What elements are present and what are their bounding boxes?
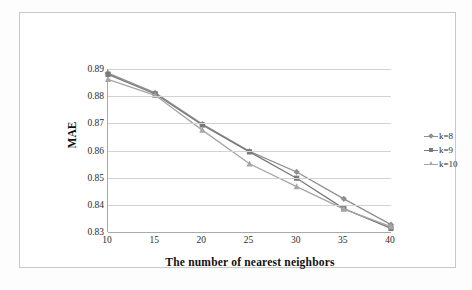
chart-legend: k=8k=9k=10 [424, 129, 472, 171]
gridline-y-0-84 [108, 205, 391, 206]
x-tick-label: 20 [197, 235, 207, 245]
y-tick-label: 0.86 [87, 146, 104, 156]
gridline-y-0-89 [108, 69, 391, 70]
x-tick-label: 15 [149, 235, 159, 245]
figure-canvas: MAE 0.890.880.870.860.850.840.83 1015202… [0, 0, 472, 290]
legend-swatch-diamond-icon [424, 131, 438, 141]
legend-item-k-9[interactable]: k=9 [424, 143, 472, 157]
y-tick-label: 0.84 [87, 200, 104, 210]
x-tick-label: 10 [102, 235, 112, 245]
legend-label: k=8 [439, 131, 453, 141]
legend-label: k=10 [439, 159, 458, 169]
gridline-y-0-87 [108, 123, 391, 124]
gridline-y-0-85 [108, 178, 391, 179]
data-point-marker [294, 169, 300, 175]
legend-swatch-square-icon [424, 145, 438, 155]
legend-label: k=9 [439, 145, 453, 155]
plot-area [107, 69, 390, 232]
legend-item-k-10[interactable]: k=10 [424, 157, 472, 171]
y-axis-tick-labels: 0.890.880.870.860.850.840.83 [64, 62, 104, 240]
legend-marker [429, 161, 433, 165]
y-tick-label: 0.88 [87, 91, 104, 101]
legend-swatch-triangle-icon [424, 159, 438, 169]
y-tick-label: 0.87 [87, 118, 104, 128]
legend-marker [429, 148, 433, 152]
x-tick-label: 35 [338, 235, 348, 245]
y-tick-label: 0.89 [87, 64, 104, 74]
gridline-y-0-88 [108, 96, 391, 97]
legend-item-k-8[interactable]: k=8 [424, 129, 472, 143]
x-tick-label: 30 [291, 235, 301, 245]
figure-border: MAE 0.890.880.870.860.850.840.83 1015202… [19, 12, 456, 268]
gridline-y-0-83 [108, 232, 391, 233]
x-tick-label: 40 [385, 235, 395, 245]
legend-marker [428, 133, 434, 139]
gridline-y-0-86 [108, 151, 391, 152]
x-axis-tick-labels: 10152025303540 [107, 235, 390, 251]
x-tick-label: 25 [244, 235, 254, 245]
data-point-marker [246, 160, 252, 166]
data-point-marker [341, 196, 347, 202]
y-tick-label: 0.85 [87, 173, 104, 183]
x-axis-title: The number of nearest neighbors [80, 256, 420, 268]
data-point-marker [199, 127, 205, 133]
